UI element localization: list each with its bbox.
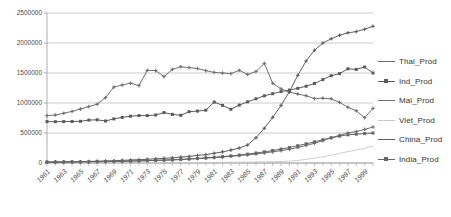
data-point xyxy=(271,149,274,152)
data-point xyxy=(238,154,241,157)
x-axis-tick-label: 1975 xyxy=(152,168,168,184)
y-axis-tick-label: 2000000 xyxy=(17,39,43,46)
plot-area: 0500000100000015000002000000250000019611… xyxy=(0,0,378,217)
series-line xyxy=(47,63,373,117)
data-point xyxy=(263,94,266,97)
data-point xyxy=(330,74,333,77)
data-point xyxy=(213,156,216,159)
x-axis-tick-label: 1993 xyxy=(303,168,319,184)
x-axis-tick-label: 1985 xyxy=(236,168,252,184)
data-point xyxy=(346,133,349,136)
data-point xyxy=(188,110,191,113)
data-point xyxy=(372,132,375,135)
y-axis-tick-label: 0 xyxy=(38,159,42,166)
data-point xyxy=(121,116,124,119)
x-axis-tick-label: 1991 xyxy=(286,168,302,184)
data-point xyxy=(96,118,99,121)
x-axis-tick-label: 1967 xyxy=(85,167,102,184)
y-axis-tick-label: 2500000 xyxy=(17,9,43,16)
data-point xyxy=(229,108,232,111)
data-point xyxy=(154,159,157,162)
data-point xyxy=(62,160,65,163)
series-line xyxy=(47,67,373,122)
y-axis-tick-label: 1000000 xyxy=(17,99,43,106)
legend-marker-icon xyxy=(378,120,395,121)
legend-item-mal-prod[interactable]: Mal_Prod xyxy=(378,91,451,111)
legend-marker-icon xyxy=(378,159,395,160)
x-axis-tick-label: 1973 xyxy=(136,168,152,184)
data-point xyxy=(296,87,299,90)
data-point xyxy=(46,161,49,164)
legend-item-thai-prod[interactable]: Thai_Prod xyxy=(378,52,451,72)
data-point xyxy=(372,72,375,75)
series-india-prod xyxy=(46,132,375,164)
data-point xyxy=(171,113,174,116)
x-axis-tick-label: 1997 xyxy=(336,167,353,184)
data-point xyxy=(238,104,241,107)
data-point xyxy=(363,66,366,69)
series-line xyxy=(47,26,373,162)
line-chart: 0500000100000015000002000000250000019611… xyxy=(0,0,451,217)
data-point xyxy=(104,160,107,163)
x-axis-tick-label: 1989 xyxy=(269,168,285,184)
data-point xyxy=(71,120,74,123)
data-point xyxy=(355,133,358,136)
data-point xyxy=(179,114,182,117)
data-point xyxy=(79,160,82,163)
x-axis-tick-label: 1987 xyxy=(253,167,270,184)
legend-marker-icon xyxy=(378,139,395,140)
x-axis-tick-label: 1995 xyxy=(319,168,335,184)
data-point xyxy=(79,120,82,123)
data-point xyxy=(137,159,140,162)
data-point xyxy=(338,135,341,138)
data-point xyxy=(163,159,166,162)
legend-marker-icon xyxy=(378,81,395,82)
legend-item-india-prod[interactable]: India_Prod xyxy=(378,150,451,170)
legend-item-china-prod[interactable]: China_Prod xyxy=(378,130,451,150)
data-point xyxy=(87,160,90,163)
data-point xyxy=(346,67,349,70)
data-point xyxy=(296,144,299,147)
data-point xyxy=(363,132,366,135)
data-point xyxy=(338,72,341,75)
data-point xyxy=(62,120,65,123)
legend-item-ind-prod[interactable]: Ind_Prod xyxy=(378,72,451,92)
legend-item-viet-prod[interactable]: Viet_Prod xyxy=(378,111,451,131)
data-point xyxy=(96,160,99,163)
legend-item-label: Viet_Prod xyxy=(399,116,435,125)
data-point xyxy=(254,152,257,155)
data-point xyxy=(54,161,57,164)
data-point xyxy=(129,160,132,163)
x-axis-tick-label: 1965 xyxy=(69,168,85,184)
x-axis-tick-label: 1969 xyxy=(102,168,118,184)
data-point xyxy=(330,136,333,139)
chart-canvas: 0500000100000015000002000000250000019611… xyxy=(0,0,378,217)
data-point xyxy=(146,114,149,117)
data-point xyxy=(146,159,149,162)
series-mal-prod xyxy=(45,62,375,120)
data-point xyxy=(321,78,324,81)
data-point xyxy=(112,160,115,163)
data-point xyxy=(313,82,316,85)
data-point xyxy=(221,155,224,158)
legend-marker-icon xyxy=(378,61,395,62)
legend-item-label: Thai_Prod xyxy=(399,57,437,66)
data-point xyxy=(179,158,182,161)
data-point xyxy=(71,160,74,163)
y-axis-tick-label: 500000 xyxy=(20,129,42,136)
legend-item-label: Ind_Prod xyxy=(399,77,432,86)
data-point xyxy=(313,140,316,143)
chart-legend: Thai_ProdInd_ProdMal_ProdViet_ProdChina_… xyxy=(378,52,451,169)
data-point xyxy=(271,92,274,95)
data-point xyxy=(171,158,174,161)
data-point xyxy=(229,154,232,157)
x-axis-tick-label: 1963 xyxy=(52,168,68,184)
data-point xyxy=(254,97,257,100)
legend-item-label: Mal_Prod xyxy=(399,96,434,105)
x-axis-tick-label: 1971 xyxy=(119,168,135,184)
series-line xyxy=(47,133,373,162)
data-point xyxy=(321,138,324,141)
x-axis-tick-label: 1979 xyxy=(186,168,202,184)
data-point xyxy=(87,119,90,122)
data-point xyxy=(54,120,57,123)
